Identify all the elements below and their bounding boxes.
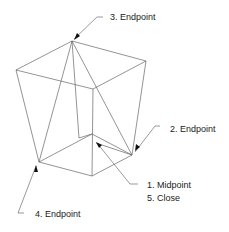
label-endpoint-4: 4. Endpoint bbox=[35, 209, 81, 219]
label-endpoint-3: 3. Endpoint bbox=[110, 12, 156, 22]
label-midpoint-1: 1. Midpoint bbox=[147, 180, 191, 190]
wireframe-diagram bbox=[0, 0, 229, 232]
label-close-5: 5. Close bbox=[147, 193, 180, 203]
leader-lines bbox=[18, 17, 160, 213]
arrow-icon bbox=[135, 144, 140, 151]
label-endpoint-2: 2. Endpoint bbox=[170, 124, 216, 134]
arrow-icon bbox=[96, 142, 102, 148]
wireframe-edges bbox=[16, 41, 146, 176]
arrow-icon bbox=[34, 165, 38, 172]
